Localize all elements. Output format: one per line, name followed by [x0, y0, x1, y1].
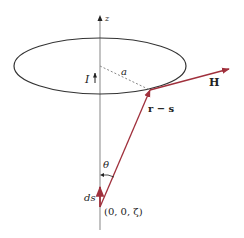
source-point-label: (0, 0, ζ)	[104, 206, 143, 217]
angle-label: θ	[103, 159, 109, 170]
field-label: H	[209, 76, 219, 89]
z-axis-arrow-icon	[98, 15, 103, 21]
biot-savart-diagram: z a I r − s H θ ds (0, 0, ζ)	[0, 0, 244, 238]
displacement-vector	[100, 90, 150, 207]
current-label: I	[84, 73, 90, 86]
radius-label: a	[121, 66, 127, 77]
z-axis-label: z	[104, 14, 110, 23]
element-label: ds	[84, 192, 96, 203]
displacement-label: r − s	[148, 103, 175, 114]
